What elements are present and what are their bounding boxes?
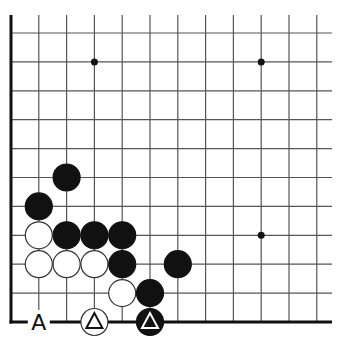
black-stone: [109, 222, 136, 249]
white-stone: [81, 251, 108, 278]
black-stone: [25, 193, 52, 220]
black-stone: [164, 251, 191, 278]
star-point: [258, 58, 265, 65]
go-board: A: [0, 0, 340, 346]
board-labels: A: [28, 310, 50, 335]
white-stone: [53, 251, 80, 278]
white-stone: [25, 251, 52, 278]
stones: [25, 164, 191, 336]
black-stone: [53, 164, 80, 191]
black-stone: [137, 280, 164, 307]
star-point: [91, 58, 98, 65]
black-stone: [53, 222, 80, 249]
star-point: [258, 232, 265, 239]
black-stone: [109, 251, 136, 278]
point-label-a: A: [31, 310, 46, 335]
white-stone: [109, 280, 136, 307]
black-stone: [81, 222, 108, 249]
white-stone: [25, 222, 52, 249]
